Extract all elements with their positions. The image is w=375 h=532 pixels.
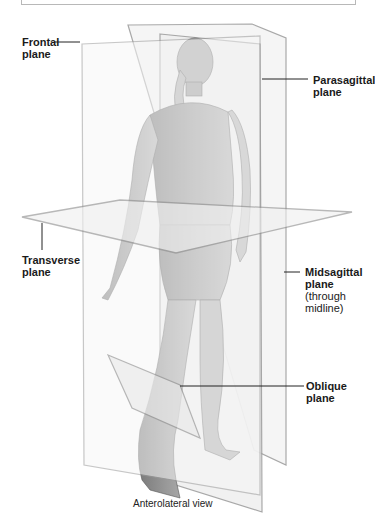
- label-oblique-line2: plane: [306, 392, 335, 404]
- label-midsagittal-line1: Midsagittal: [305, 266, 362, 278]
- figure-caption: Anterolateral view: [133, 498, 212, 509]
- label-transverse-line2: plane: [22, 266, 51, 278]
- label-transverse-line1: Transverse: [22, 254, 80, 266]
- label-midsagittal-note1: (through: [305, 290, 362, 302]
- label-oblique-plane: Oblique plane: [306, 380, 347, 404]
- transverse-plane: [22, 200, 352, 253]
- label-midsagittal-note2: midline): [305, 302, 362, 314]
- label-transverse-plane: Transverse plane: [22, 254, 80, 278]
- label-midsagittal-plane: Midsagittal plane (through midline): [305, 266, 362, 314]
- label-parasagittal-line2: plane: [313, 86, 342, 98]
- label-frontal-line2: plane: [22, 48, 51, 60]
- label-frontal-plane: Frontal plane: [22, 36, 59, 60]
- label-parasagittal-line1: Parasagittal: [313, 74, 375, 86]
- label-oblique-line1: Oblique: [306, 380, 347, 392]
- label-parasagittal-plane: Parasagittal plane: [313, 74, 375, 98]
- label-frontal-line1: Frontal: [22, 36, 59, 48]
- frontal-plane: [82, 36, 260, 495]
- label-midsagittal-line2: plane: [305, 278, 334, 290]
